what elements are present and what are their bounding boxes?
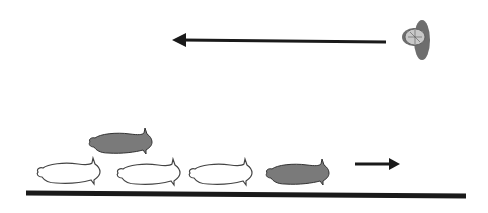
small-arrow-right [355, 158, 400, 170]
diagram-canvas [0, 0, 488, 213]
larva-raised-filled [89, 128, 152, 154]
larva-outline-3 [189, 159, 252, 185]
ground-line [26, 193, 466, 196]
top-arrow-left [172, 33, 386, 47]
larva-outline-2 [117, 159, 180, 185]
larva-filled-lead [266, 159, 329, 185]
larva-front-view-icon [402, 20, 430, 60]
larva-outline-1 [37, 158, 100, 184]
